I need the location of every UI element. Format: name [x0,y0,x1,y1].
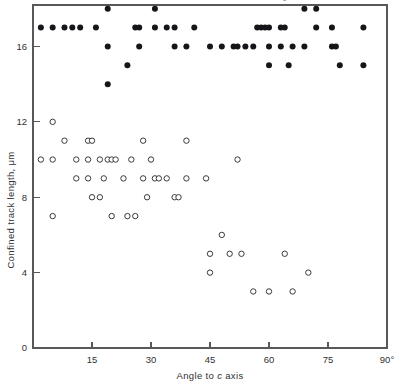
series-short-confined-tracks [38,119,311,294]
data-point [133,213,138,218]
data-point [50,119,55,124]
data-point [38,157,43,162]
data-point [89,138,94,143]
data-point [286,62,292,68]
data-point [113,157,118,162]
data-point [38,25,44,31]
x-tick-label-15: 15 [87,354,98,365]
data-point [203,176,208,181]
data-point [152,25,158,31]
data-point [61,25,67,31]
data-point [77,25,83,31]
data-point [301,43,307,49]
data-point [184,138,189,143]
data-point [97,157,102,162]
data-point [242,43,248,49]
x-tick-label-30: 30 [146,354,157,365]
data-point [136,43,142,49]
data-point [140,138,145,143]
data-point [250,43,256,49]
data-point [89,195,94,200]
data-point [62,138,67,143]
y-axis-title: Confined track length, μm [5,151,16,268]
x-tick-label-60: 60 [264,354,275,365]
data-point [176,195,181,200]
y-tick-label-8: 8 [22,192,27,203]
data-point [207,251,212,256]
data-point [136,25,142,31]
data-point [266,62,272,68]
data-point [93,25,99,31]
data-point [50,157,55,162]
data-point [164,25,170,31]
data-point [333,43,339,49]
data-point [290,289,295,294]
y-tick-label-16: 16 [16,41,27,52]
data-point [129,157,134,162]
y-axis-ticks: 0481216 [16,41,40,354]
data-point [207,270,212,275]
data-point [50,213,55,218]
data-point [266,289,271,294]
data-point [152,6,158,12]
data-point [109,213,114,218]
y-tick-label-0: 0 [22,342,27,353]
data-point [184,176,189,181]
scatter-plot-canvas: 153045607590° 0481216 Angle to c axis Co… [0,0,406,391]
data-point [251,289,256,294]
data-point [266,25,272,31]
data-point [69,25,75,31]
x-tick-label-45: 45 [205,354,216,365]
data-point [235,43,241,49]
data-point [124,62,130,68]
data-point [282,25,288,31]
data-point [148,157,153,162]
data-point [101,176,106,181]
data-point [105,43,111,49]
data-point [144,195,149,200]
data-point [105,81,111,87]
data-point [85,176,90,181]
data-point [219,43,225,49]
data-point [74,176,79,181]
data-point [125,213,130,218]
data-point [306,270,311,275]
data-point [50,25,56,31]
data-point [219,232,224,237]
x-axis-ticks: 153045607590° [87,342,395,365]
data-point [290,43,296,49]
data-point [301,6,307,12]
data-point [97,195,102,200]
data-point [183,43,189,49]
data-point [337,62,343,68]
data-point [105,6,111,12]
data-point [85,157,90,162]
data-point [360,25,366,31]
x-axis-title: Angle to c axis [176,370,243,381]
data-point [235,157,240,162]
data-point [360,62,366,68]
data-point [172,43,178,49]
data-point [121,176,126,181]
data-point [172,25,178,31]
data-point [313,6,319,12]
chart-figure: 153045607590° 0481216 Angle to c axis Co… [0,0,406,391]
data-point [74,157,79,162]
data-point [313,25,319,31]
data-point [329,25,335,31]
data-point [239,251,244,256]
data-point [164,176,169,181]
data-point [156,176,161,181]
data-point [278,43,284,49]
x-tick-label-90: 90° [380,354,395,365]
data-point [191,25,197,31]
series-long-confined-tracks [38,0,367,87]
data-point [282,251,287,256]
data-point [207,43,213,49]
data-point [227,251,232,256]
y-tick-label-4: 4 [22,267,27,278]
y-tick-label-12: 12 [16,116,27,127]
x-tick-label-75: 75 [323,354,334,365]
data-point [140,176,145,181]
data-point [266,43,272,49]
